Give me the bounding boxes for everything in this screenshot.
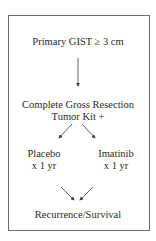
- arrow-to-placebo-icon: [59, 124, 72, 138]
- arrow-to-imatinib-icon: [82, 124, 95, 138]
- arrow-imatinib-to-outcome-icon: [80, 187, 93, 200]
- flow-arrows: [0, 0, 156, 241]
- arrow-placebo-to-outcome-icon: [61, 187, 74, 200]
